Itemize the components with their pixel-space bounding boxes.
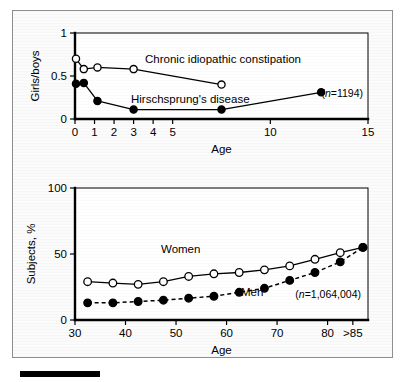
data-point-marker xyxy=(185,294,193,302)
y-tick-label: 50 xyxy=(54,248,67,260)
x-tick-label: 3 xyxy=(130,126,136,138)
data-point-marker xyxy=(130,66,137,73)
top-series-label-hirschsprung: Hirschsprung's disease xyxy=(131,93,250,105)
data-point-marker xyxy=(311,269,319,277)
x-tick-label: >85 xyxy=(343,327,363,339)
figure-root: 00.51 0123451015 Girls/boys Age Chronic … xyxy=(0,0,407,382)
top-x-tick-labels: 0123451015 xyxy=(72,126,375,138)
bottom-series-label-men: Men xyxy=(241,286,263,298)
bottom-y-axis-title: Subjects, % xyxy=(25,224,37,285)
data-point-marker xyxy=(286,262,294,270)
data-point-marker xyxy=(130,106,137,113)
top-y-tick-labels: 00.51 xyxy=(51,27,67,125)
bottom-series-label-women: Women xyxy=(161,243,200,255)
bottom-x-axis-title: Age xyxy=(211,344,231,356)
y-tick-label: 0.5 xyxy=(51,70,67,82)
chart-bottom-svg: 050100 304050607080>85 Subjects, % Age W… xyxy=(13,161,394,359)
y-tick-label: 0 xyxy=(61,113,67,125)
data-point-marker xyxy=(134,298,142,306)
data-point-marker xyxy=(72,80,79,87)
top-series-label-constipation: Chronic idiopathic constipation xyxy=(145,53,301,65)
data-point-marker xyxy=(80,66,87,73)
data-point-marker xyxy=(94,97,101,104)
data-point-marker xyxy=(311,255,319,263)
data-point-marker xyxy=(235,269,243,277)
y-tick-label: 100 xyxy=(48,182,67,194)
data-point-marker xyxy=(109,279,117,287)
x-tick-label: 70 xyxy=(271,327,284,339)
x-tick-label: 30 xyxy=(69,327,82,339)
bottom-x-tick-labels: 304050607080>85 xyxy=(69,327,363,339)
chart-top-girls-boys-by-age: 00.51 0123451015 Girls/boys Age Chronic … xyxy=(13,11,394,183)
x-tick-label: 15 xyxy=(362,126,375,138)
x-tick-label: 50 xyxy=(170,327,183,339)
data-point-marker xyxy=(160,278,168,286)
bottom-plot-frame xyxy=(75,188,368,320)
data-point-marker xyxy=(210,270,218,278)
data-point-marker xyxy=(286,277,294,285)
top-x-axis-title: Age xyxy=(211,143,231,155)
figure-panel: 00.51 0123451015 Girls/boys Age Chronic … xyxy=(12,10,393,358)
chart-bottom-subjects-by-age: 050100 304050607080>85 Subjects, % Age W… xyxy=(13,161,394,359)
data-point-marker xyxy=(80,79,87,86)
x-tick-label: 60 xyxy=(220,327,233,339)
top-y-axis-title: Girls/boys xyxy=(29,50,41,101)
x-tick-label: 10 xyxy=(264,126,277,138)
data-point-marker xyxy=(210,292,218,300)
data-point-marker xyxy=(84,278,92,286)
data-point-marker xyxy=(218,81,225,88)
x-tick-label: 40 xyxy=(119,327,132,339)
data-point-marker xyxy=(94,64,101,71)
top-n-annotation: (n=1194) xyxy=(321,87,363,99)
data-point-marker xyxy=(109,299,117,307)
y-tick-label: 0 xyxy=(61,314,67,326)
data-point-marker xyxy=(185,273,193,281)
data-point-marker xyxy=(160,296,168,304)
x-tick-label: 2 xyxy=(111,126,117,138)
bottom-y-tick-labels: 050100 xyxy=(48,182,67,326)
data-point-marker xyxy=(359,244,367,252)
scale-bar xyxy=(20,371,100,377)
x-tick-label: 1 xyxy=(91,126,97,138)
data-point-marker xyxy=(336,249,344,257)
data-point-marker xyxy=(84,299,92,307)
chart-top-svg: 00.51 0123451015 Girls/boys Age Chronic … xyxy=(13,11,394,183)
x-tick-label: 5 xyxy=(169,126,175,138)
data-point-marker xyxy=(336,258,344,266)
bottom-n-annotation: (n=1,064,004) xyxy=(295,288,361,300)
data-point-marker xyxy=(261,266,269,274)
y-tick-label: 1 xyxy=(61,27,67,39)
data-point-marker xyxy=(134,281,142,289)
x-tick-label: 4 xyxy=(150,126,157,138)
data-point-marker xyxy=(72,55,79,62)
x-tick-label: 0 xyxy=(72,126,78,138)
data-point-marker xyxy=(218,106,225,113)
x-tick-label: 80 xyxy=(321,327,334,339)
